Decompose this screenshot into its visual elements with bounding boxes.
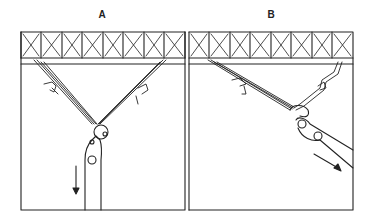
panel-b xyxy=(189,32,353,210)
arrow-down-icon xyxy=(73,166,79,194)
truss-b xyxy=(189,32,353,64)
sling-left-a xyxy=(34,60,97,124)
shackle-b xyxy=(290,106,309,117)
panel-b-frame xyxy=(189,32,353,210)
sling-right-a xyxy=(98,60,166,124)
panel-a xyxy=(21,32,185,210)
pulley-a xyxy=(85,136,102,210)
sling-left-b xyxy=(208,60,294,110)
rigging-diagram xyxy=(0,0,370,217)
truss-a xyxy=(21,32,185,64)
arrow-down-right-icon xyxy=(314,154,341,171)
